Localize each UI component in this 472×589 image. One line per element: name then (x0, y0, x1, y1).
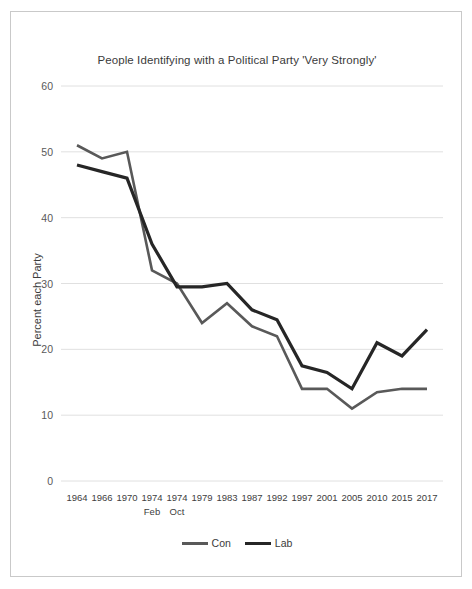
x-tick-label: 1964 (66, 492, 87, 503)
data-series-group (77, 145, 427, 408)
x-tick-label: 2010 (366, 492, 387, 503)
y-tick-label: 20 (41, 343, 53, 355)
y-tick-label: 30 (41, 278, 53, 290)
y-axis-tick-labels: 0102030405060 (41, 80, 53, 487)
chart-card: People Identifying with a Political Part… (10, 11, 462, 577)
x-tick-label: 1979 (191, 492, 212, 503)
x-tick-sublabel: Oct (170, 506, 185, 517)
y-tick-label: 50 (41, 146, 53, 158)
x-tick-label: 1966 (91, 492, 112, 503)
x-tick-label: 1987 (241, 492, 262, 503)
y-tick-label: 10 (41, 409, 53, 421)
x-tick-label: 2015 (391, 492, 412, 503)
gridlines (61, 86, 443, 481)
x-tick-label: 1983 (216, 492, 237, 503)
legend-label-con: Con (212, 537, 231, 549)
y-tick-label: 40 (41, 212, 53, 224)
x-tick-label: 1974 (141, 492, 162, 503)
x-tick-label: 2017 (416, 492, 437, 503)
x-tick-label: 1992 (266, 492, 287, 503)
y-tick-label: 60 (41, 80, 53, 92)
x-tick-label: 1974 (166, 492, 187, 503)
legend-swatch-lab (245, 542, 271, 545)
chart-legend: ConLab (11, 537, 463, 549)
x-tick-label: 2005 (341, 492, 362, 503)
x-tick-label: 1970 (116, 492, 137, 503)
line-chart-plot: 0102030405060 1964196619701974Feb1974Oct… (11, 12, 463, 532)
series-line-lab (77, 165, 427, 389)
y-axis-title: Percent each Party (31, 253, 43, 347)
legend-item-lab[interactable]: Lab (245, 537, 293, 549)
legend-swatch-con (182, 542, 208, 545)
x-axis-tick-labels: 1964196619701974Feb1974Oct19791983198719… (66, 492, 437, 517)
legend-item-con[interactable]: Con (182, 537, 231, 549)
x-tick-label: 2001 (316, 492, 337, 503)
legend-label-lab: Lab (275, 537, 293, 549)
y-tick-label: 0 (47, 475, 53, 487)
x-tick-label: 1997 (291, 492, 312, 503)
x-tick-sublabel: Feb (144, 506, 160, 517)
